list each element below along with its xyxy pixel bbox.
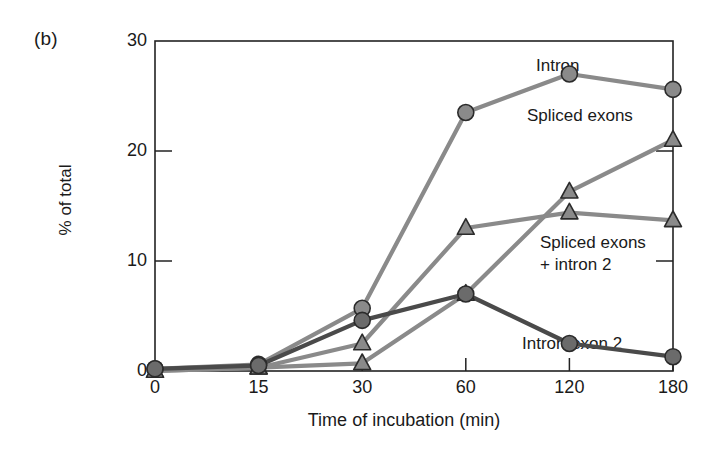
data-point-circle [354,312,370,328]
data-point-circle [561,66,577,82]
figure-panel-b: (b) % of total Time of incubation (min) … [0,0,710,451]
series-line [155,294,673,369]
data-point-circle [458,286,474,302]
data-point-circle [561,336,577,352]
data-point-triangle [665,131,682,147]
data-point-circle [147,361,163,377]
data-point-circle [665,81,681,97]
series-line [155,140,673,371]
plot-area [0,0,710,451]
data-point-circle [458,105,474,121]
data-point-circle [665,349,681,365]
series-line [155,74,673,369]
data-point-circle [251,358,267,374]
